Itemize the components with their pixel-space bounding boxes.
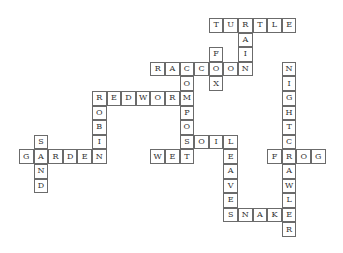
- grid-cell: F: [267, 149, 282, 164]
- grid-cell: S: [34, 135, 49, 150]
- grid-cell: I: [209, 135, 224, 150]
- grid-cell: N: [92, 149, 107, 164]
- grid-cell: O: [296, 149, 311, 164]
- grid-cell: L: [267, 18, 282, 33]
- grid-cell: I: [282, 76, 297, 91]
- grid-cell: O: [180, 120, 195, 135]
- grid-cell: G: [19, 149, 34, 164]
- grid-cell: I: [92, 135, 107, 150]
- grid-cell: G: [282, 91, 297, 106]
- grid-cell: R: [92, 91, 107, 106]
- grid-cell: R: [238, 18, 253, 33]
- grid-cell: E: [282, 208, 297, 223]
- grid-cell: T: [180, 149, 195, 164]
- grid-cell: U: [223, 18, 238, 33]
- grid-cell: A: [282, 164, 297, 179]
- grid-cell: L: [223, 135, 238, 150]
- grid-cell: R: [165, 91, 180, 106]
- grid-cell: R: [48, 149, 63, 164]
- grid-cell: O: [150, 91, 165, 106]
- grid-cell: O: [223, 62, 238, 77]
- grid-cell: D: [121, 91, 136, 106]
- grid-cell: D: [34, 179, 49, 194]
- grid-cell: M: [180, 91, 195, 106]
- grid-cell: K: [267, 208, 282, 223]
- grid-cell: A: [253, 208, 268, 223]
- grid-cell: E: [165, 149, 180, 164]
- grid-cell: E: [77, 149, 92, 164]
- grid-cell: N: [282, 62, 297, 77]
- grid-cell: N: [34, 164, 49, 179]
- grid-cell: S: [223, 208, 238, 223]
- grid-cell: N: [238, 208, 253, 223]
- grid-cell: O: [180, 76, 195, 91]
- grid-cell: A: [165, 62, 180, 77]
- grid-cell: O: [92, 106, 107, 121]
- grid-cell: E: [223, 149, 238, 164]
- grid-cell: E: [223, 193, 238, 208]
- grid-cell: P: [180, 106, 195, 121]
- grid-cell: O: [194, 135, 209, 150]
- grid-cell: C: [180, 62, 195, 77]
- grid-cell: T: [282, 120, 297, 135]
- grid-cell: B: [92, 120, 107, 135]
- grid-cell: R: [282, 222, 297, 237]
- grid-cell: H: [282, 106, 297, 121]
- grid-cell: I: [238, 47, 253, 62]
- grid-cell: C: [194, 62, 209, 77]
- grid-cell: V: [223, 179, 238, 194]
- grid-cell: O: [209, 62, 224, 77]
- grid-cell: C: [282, 135, 297, 150]
- grid-cell: T: [209, 18, 224, 33]
- grid-cell: L: [282, 193, 297, 208]
- grid-cell: E: [107, 91, 122, 106]
- grid-cell: W: [136, 91, 151, 106]
- grid-cell: S: [180, 135, 195, 150]
- grid-cell: W: [282, 179, 297, 194]
- grid-cell: N: [238, 62, 253, 77]
- grid-cell: W: [150, 149, 165, 164]
- grid-cell: A: [238, 33, 253, 48]
- grid-cell: R: [282, 149, 297, 164]
- grid-cell: X: [209, 76, 224, 91]
- grid-cell: E: [282, 18, 297, 33]
- grid-cell: G: [311, 149, 326, 164]
- grid-cell: R: [150, 62, 165, 77]
- grid-cell: D: [63, 149, 78, 164]
- grid-cell: T: [253, 18, 268, 33]
- grid-cell: A: [223, 164, 238, 179]
- grid-cell: A: [34, 149, 49, 164]
- grid-cell: F: [209, 47, 224, 62]
- crossword-grid: TURTLEAINFOXRACCOOMPOSTNIGHTCRAWLERREDWO…: [0, 0, 343, 253]
